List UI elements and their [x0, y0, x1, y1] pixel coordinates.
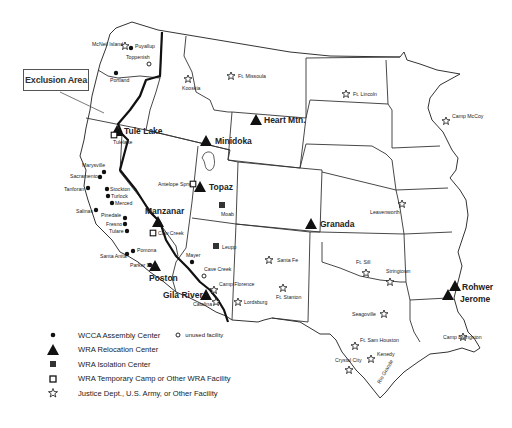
svg-text:Sacramento: Sacramento	[70, 173, 98, 179]
triangle-icon	[42, 344, 64, 355]
svg-text:Rohwer: Rohwer	[462, 282, 494, 292]
svg-text:Topaz: Topaz	[209, 182, 233, 192]
svg-text:Catalina: Catalina	[193, 301, 212, 307]
svg-text:Ft. Stanton: Ft. Stanton	[276, 294, 301, 300]
svg-text:Manzanar: Manzanar	[145, 206, 185, 216]
filled-square-icon	[42, 360, 64, 368]
svg-text:Lordsburg: Lordsburg	[244, 299, 267, 305]
svg-text:Tule Lake: Tule Lake	[124, 126, 163, 136]
svg-text:McNeil Island: McNeil Island	[92, 41, 123, 47]
svg-text:Salinas: Salinas	[76, 208, 93, 214]
open-square-icon	[42, 375, 64, 383]
legend-row-assembly: WCCA Assembly Center unused facility	[42, 328, 272, 343]
svg-text:Parker Dam: Parker Dam	[130, 262, 158, 268]
legend-row-isolation: WRA Isolation Center	[42, 357, 272, 372]
svg-text:Ft. Lincoln: Ft. Lincoln	[353, 91, 377, 97]
svg-text:Moab: Moab	[221, 211, 234, 217]
svg-text:Ft. Sill: Ft. Sill	[356, 259, 370, 265]
svg-text:Tulelake: Tulelake	[113, 139, 133, 145]
svg-text:Marysville: Marysville	[82, 162, 105, 168]
svg-text:Ft. Missoula: Ft. Missoula	[238, 73, 266, 79]
svg-text:Tanforan: Tanforan	[64, 186, 84, 192]
svg-text:Jerome: Jerome	[460, 294, 491, 304]
svg-text:Tulare: Tulare	[109, 228, 124, 234]
svg-text:Toppenish: Toppenish	[126, 54, 150, 60]
map-legend: WCCA Assembly Center unused facility WRA…	[42, 328, 272, 401]
legend-row-justice: Justice Dept., U.S. Army, or Other Facil…	[42, 386, 272, 401]
svg-text:Mayer: Mayer	[186, 252, 201, 258]
svg-text:Camp McCoy: Camp McCoy	[452, 113, 484, 119]
svg-text:Merced: Merced	[115, 200, 132, 206]
svg-text:Santa Fe: Santa Fe	[277, 257, 298, 263]
svg-text:Fresno: Fresno	[106, 221, 122, 227]
svg-text:Seagoville: Seagoville	[352, 311, 376, 317]
legend-row-relocation: WRA Relocation Center	[42, 343, 272, 358]
svg-text:Portland: Portland	[110, 77, 129, 83]
svg-text:Heart Mtn.: Heart Mtn.	[264, 115, 306, 125]
svg-text:Minidoka: Minidoka	[215, 136, 252, 146]
svg-text:Poston: Poston	[149, 273, 178, 283]
svg-text:Turlock: Turlock	[111, 193, 128, 199]
svg-text:Crystal City: Crystal City	[335, 357, 362, 363]
svg-text:Granada: Granada	[320, 219, 355, 229]
svg-text:Puyallup: Puyallup	[135, 43, 155, 49]
svg-text:Ft. Sam Houston: Ft. Sam Houston	[360, 337, 399, 343]
svg-text:Cave Creek: Cave Creek	[204, 266, 232, 272]
svg-text:Antelope Sprs.: Antelope Sprs.	[158, 181, 192, 187]
svg-text:Stringtown: Stringtown	[386, 268, 411, 274]
svg-text:Pinedale: Pinedale	[101, 212, 121, 218]
svg-text:Kenedy: Kenedy	[377, 351, 395, 357]
star-icon	[42, 388, 64, 398]
exclusion-area-callout: Exclusion Area	[23, 69, 89, 91]
svg-text:Camp Florence: Camp Florence	[219, 281, 255, 287]
legend-row-temporary: WRA Temporary Camp or Other WRA Facility	[42, 372, 272, 387]
svg-text:Cow Creek: Cow Creek	[158, 230, 184, 236]
circle-icon	[174, 331, 182, 340]
svg-text:Kooskia: Kooskia	[182, 85, 201, 91]
svg-text:Leavenworth: Leavenworth	[370, 209, 400, 215]
svg-text:Stockton: Stockton	[110, 186, 130, 192]
svg-text:Camp Livingston: Camp Livingston	[443, 334, 482, 340]
svg-text:Pomona: Pomona	[137, 247, 156, 253]
svg-text:Santa Anita: Santa Anita	[100, 253, 127, 259]
svg-text:Gila River: Gila River	[163, 290, 203, 300]
dot-icon	[42, 331, 64, 339]
svg-text:Leupp: Leupp	[222, 244, 237, 250]
